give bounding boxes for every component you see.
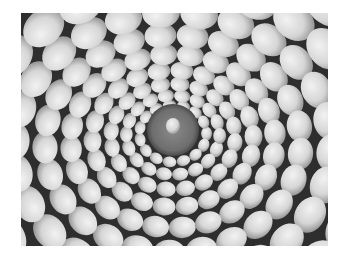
pebble-spiral-illustration: [21, 13, 328, 246]
center-pebble: [166, 118, 180, 134]
pebble-spiral-photo: [21, 13, 328, 246]
